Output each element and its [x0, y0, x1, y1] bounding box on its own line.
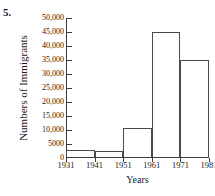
y-axis-tick [67, 74, 72, 75]
y-axis-tick-label: 15,000 [28, 112, 64, 120]
x-axis-tick-label: 1981 [194, 160, 215, 170]
plot-area [66, 18, 209, 158]
x-axis-tick-label: 1971 [165, 160, 195, 170]
y-axis-tick-labels: 50,00045,00040,00035,00030,00025,00020,0… [28, 14, 64, 162]
y-axis-tick-label: 40,000 [28, 42, 64, 50]
x-axis-title: Years [66, 174, 209, 186]
y-axis-tick [67, 130, 72, 131]
x-axis-tick-labels: 193119411951196119711981 [66, 160, 215, 172]
histogram-bar [123, 128, 152, 157]
y-axis-tick [67, 46, 72, 47]
y-axis-tick-label: 10,000 [28, 126, 64, 134]
problem-number-label: 5. [3, 6, 11, 18]
y-axis-tick [67, 144, 72, 145]
x-axis-tick-label: 1931 [51, 160, 81, 170]
x-axis-tick-label: 1961 [137, 160, 167, 170]
y-axis-tick-label: 30,000 [28, 70, 64, 78]
y-axis-tick-label: 20,000 [28, 98, 64, 106]
y-axis-tick [67, 18, 72, 19]
histogram-figure: 5. Numbers of Immigrants 50,00045,00040,… [0, 0, 215, 196]
y-axis-tick-label: 50,000 [28, 14, 64, 22]
y-axis-tick-label: 45,000 [28, 28, 64, 36]
y-axis-tick-label: 5000 [28, 140, 64, 148]
x-axis-tick-label: 1941 [80, 160, 110, 170]
y-axis-tick-label: 25,000 [28, 84, 64, 92]
histogram-bar [180, 60, 209, 157]
x-axis-line [66, 157, 209, 158]
y-axis-tick [67, 102, 72, 103]
y-axis-tick [67, 88, 72, 89]
histogram-bar [66, 150, 95, 157]
y-axis-tick [67, 116, 72, 117]
histogram-bar [152, 32, 181, 157]
y-axis-tick [67, 60, 72, 61]
y-axis-tick [67, 32, 72, 33]
histogram-bar [95, 151, 124, 157]
y-axis-tick-label: 35,000 [28, 56, 64, 64]
x-axis-tick-label: 1951 [108, 160, 138, 170]
